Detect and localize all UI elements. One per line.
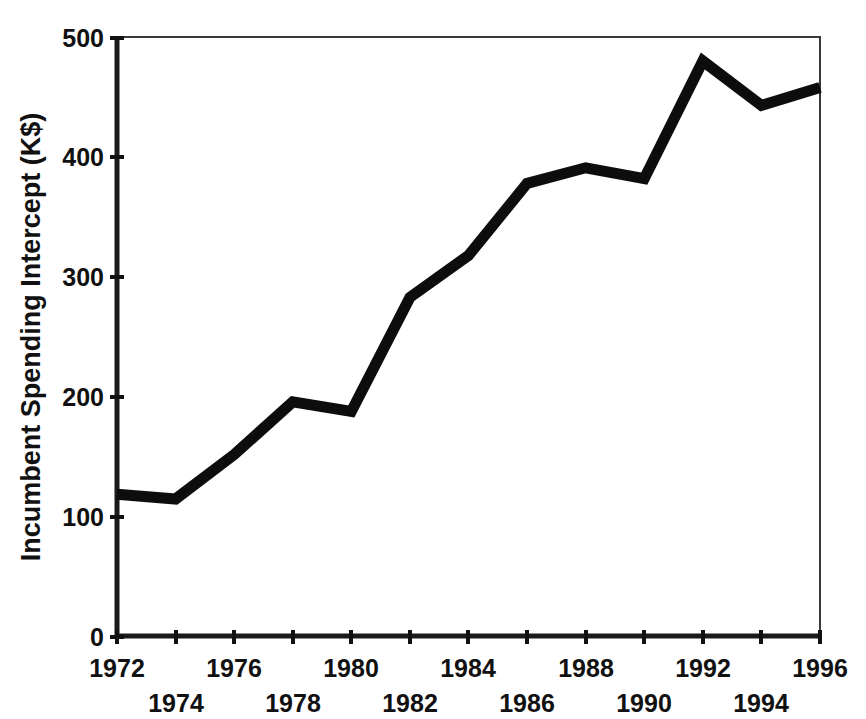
y-axis-title: Incumbent Spending Intercept (K$) — [16, 113, 46, 562]
y-tick-label-500: 500 — [62, 24, 104, 52]
x-tick-label-1992: 1992 — [675, 654, 731, 682]
x-tick-label-1996: 1996 — [792, 654, 848, 682]
x-tick-label-1974: 1974 — [148, 689, 204, 717]
x-tick-label-1990: 1990 — [616, 689, 672, 717]
y-tick-label-300: 300 — [62, 263, 104, 291]
y-tick-label-0: 0 — [90, 623, 104, 651]
y-tick-label-100: 100 — [62, 503, 104, 531]
chart-background — [0, 0, 866, 719]
x-tick-label-1986: 1986 — [499, 689, 555, 717]
line-chart: 0 100 200 300 400 500 1972 1974 — [0, 0, 866, 719]
x-tick-label-1984: 1984 — [440, 654, 496, 682]
y-tick-label-200: 200 — [62, 383, 104, 411]
x-tick-label-1972: 1972 — [89, 654, 145, 682]
x-tick-label-1982: 1982 — [382, 689, 438, 717]
x-tick-label-1980: 1980 — [323, 654, 379, 682]
x-tick-label-1978: 1978 — [265, 689, 321, 717]
chart-container: 0 100 200 300 400 500 1972 1974 — [0, 0, 866, 719]
x-tick-label-1976: 1976 — [206, 654, 262, 682]
x-tick-label-1994: 1994 — [733, 689, 789, 717]
x-tick-label-1988: 1988 — [558, 654, 614, 682]
y-tick-label-400: 400 — [62, 143, 104, 171]
